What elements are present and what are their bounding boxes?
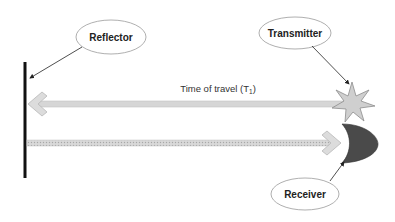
reflector-label: Reflector (89, 32, 132, 43)
transmitter-callout: Transmitter (259, 17, 349, 84)
transmitter-label: Transmitter (268, 28, 323, 39)
reflector-callout: Reflector (30, 20, 146, 78)
returning-echo-arrow (27, 131, 341, 155)
outgoing-signal-arrow (28, 92, 348, 116)
diagram-canvas: Time of travel (T1) Reflector Transmitte… (0, 0, 395, 222)
receiver-icon (342, 124, 378, 163)
receiver-callout: Receiver (271, 162, 344, 210)
receiver-label: Receiver (284, 189, 326, 200)
reflector-bar (24, 62, 27, 178)
time-of-travel-label: Time of travel (T1) (180, 83, 256, 95)
